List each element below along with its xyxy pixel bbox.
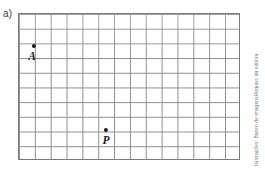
point-a-label: A bbox=[28, 50, 36, 62]
point-p-marker bbox=[104, 128, 108, 132]
image-credit-text: Ilustrações: Banco de imagens/Arquivo da… bbox=[253, 54, 259, 166]
item-letter-label: a) bbox=[3, 8, 12, 19]
point-p-label: P bbox=[102, 134, 109, 146]
figure-container: a) A P Ilustrações: Banco de imagens/Arq… bbox=[0, 0, 265, 170]
point-a-marker bbox=[32, 44, 36, 48]
coordinate-grid: A P bbox=[18, 13, 240, 160]
image-credit-container: Ilustrações: Banco de imagens/Arquivo da… bbox=[253, 0, 265, 170]
